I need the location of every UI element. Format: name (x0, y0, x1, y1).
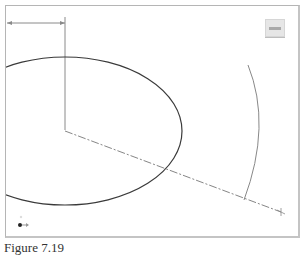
view-cube-icon (269, 27, 281, 30)
view-cube[interactable] (265, 19, 285, 37)
arc[interactable] (244, 65, 259, 200)
drawing-canvas (0, 0, 308, 259)
dimension-arrow-right (60, 21, 65, 25)
center-line[interactable] (65, 131, 281, 212)
ucs-axis-icon (18, 216, 29, 227)
figure-caption: Figure 7.19 (4, 240, 64, 256)
dimension-arrow-left (7, 21, 12, 25)
center-line-endpoint-marker (277, 208, 285, 216)
ellipse[interactable] (0, 57, 182, 205)
